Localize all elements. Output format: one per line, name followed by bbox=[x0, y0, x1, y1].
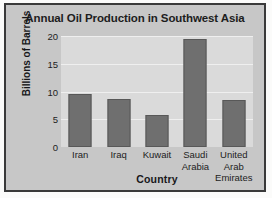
y-tick-20: 20 bbox=[14, 31, 58, 42]
x-tick-label: Iraq bbox=[99, 149, 137, 161]
bar[interactable] bbox=[69, 94, 92, 147]
y-tick-10: 10 bbox=[14, 86, 58, 97]
y-axis-tick-labels: 05101520 bbox=[6, 5, 58, 198]
y-tick-5: 5 bbox=[14, 114, 58, 125]
chart-card: Annual Oil Production in Southwest Asia … bbox=[4, 3, 266, 192]
y-tick-15: 15 bbox=[14, 58, 58, 69]
bar[interactable] bbox=[145, 115, 168, 147]
bar-slot bbox=[61, 36, 99, 147]
bar-slot bbox=[215, 36, 253, 147]
bar-series bbox=[61, 36, 253, 147]
x-tick-label: Iran bbox=[61, 149, 99, 161]
bar-slot bbox=[99, 36, 137, 147]
bar-slot bbox=[176, 36, 214, 147]
x-tick-label: Kuwait bbox=[138, 149, 176, 161]
x-axis-label: Country bbox=[61, 173, 253, 185]
bar-slot bbox=[138, 36, 176, 147]
plot-area bbox=[61, 36, 253, 147]
y-tick-0: 0 bbox=[14, 142, 58, 153]
x-tick-label: Saudi Arabia bbox=[176, 149, 214, 172]
x-axis-tick-labels: IranIraqKuwaitSaudi ArabiaUnited Arab Em… bbox=[61, 149, 253, 195]
bar[interactable] bbox=[107, 99, 130, 147]
bar[interactable] bbox=[184, 39, 207, 147]
bar[interactable] bbox=[222, 100, 245, 147]
